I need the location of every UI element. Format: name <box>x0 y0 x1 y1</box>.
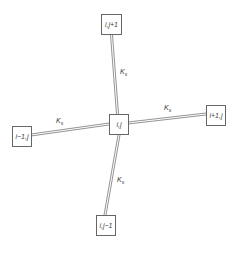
node-left: i−1,j <box>12 126 32 147</box>
node-center: i,j <box>109 114 129 135</box>
edge-label-right: Ks <box>164 104 171 113</box>
node-bottom: i,j−1 <box>96 215 116 236</box>
edge-label-left: Ks <box>56 117 63 126</box>
node-right: i+1,j <box>206 105 226 126</box>
edge-label-top: Ks <box>120 68 127 77</box>
edge-label-bottom: Ks <box>117 176 124 185</box>
node-top: i,j+1 <box>101 14 122 35</box>
